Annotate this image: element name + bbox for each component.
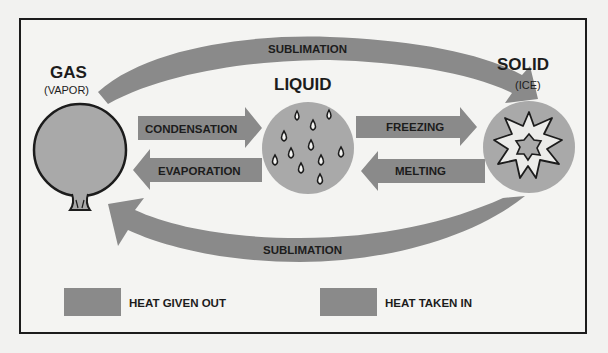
liquid-title: LIQUID xyxy=(274,75,332,94)
sublimation-top-label: SUBLIMATION xyxy=(268,43,347,55)
solid-subtitle: (ICE) xyxy=(515,79,541,91)
gas-subtitle: (VAPOR) xyxy=(44,84,89,96)
legend-swatch-heat-given-out xyxy=(64,288,121,316)
liquid-droplets-icon xyxy=(262,102,354,194)
states-of-matter-diagram: SUBLIMATION SUBLIMATION CONDENSATION EVA… xyxy=(0,0,608,353)
legend-label-heat-given-out: HEAT GIVEN OUT xyxy=(129,297,226,309)
legend-label-heat-taken-in: HEAT TAKEN IN xyxy=(385,297,472,309)
condensation-label: CONDENSATION xyxy=(145,123,237,135)
solid-snowflake-icon xyxy=(483,101,575,193)
solid-title: SOLID xyxy=(497,55,549,74)
freezing-label: FREEZING xyxy=(386,121,444,133)
melting-label: MELTING xyxy=(395,165,446,177)
gas-title: GAS xyxy=(50,63,87,82)
evaporation-label: EVAPORATION xyxy=(158,165,241,177)
sublimation-bottom-label: SUBLIMATION xyxy=(263,244,342,256)
legend-swatch-heat-taken-in xyxy=(320,288,377,316)
